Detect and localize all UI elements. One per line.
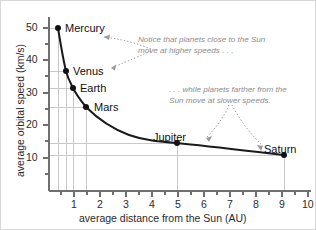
point-label-venus: Venus (73, 66, 104, 77)
x-tick-label-6: 6 (201, 199, 207, 210)
annotation-high-speed: Notice that planets close to the Sun mov… (138, 35, 265, 57)
point-mercury (55, 25, 61, 31)
point-label-jupiter: Jupiter (153, 132, 186, 143)
point-earth (70, 85, 76, 91)
point-venus (63, 68, 69, 74)
annotation-slow-speed: . . . while planets farther from the Sun… (169, 85, 287, 107)
y-tick-label-10: 10 (26, 152, 38, 163)
y-axis-ticks (43, 28, 49, 174)
x-tick-label-7: 7 (227, 199, 233, 210)
annotation-high-speed-line-2: move at higher speeds . . . (138, 46, 265, 57)
x-tick-label-10: 10 (302, 199, 314, 210)
x-tick-label-4: 4 (149, 199, 155, 210)
annotation-slow-speed-line-2: Sun move at slower speeds. (169, 96, 287, 107)
x-tick-label-2: 2 (97, 199, 103, 210)
point-mars (83, 104, 89, 110)
point-label-earth: Earth (80, 83, 106, 94)
y-tick-label-30: 30 (26, 87, 38, 98)
point-label-mercury: Mercury (65, 23, 105, 34)
x-axis-title: average distance from the Sun (AU) (79, 213, 247, 224)
chart-figure: 50 40 30 20 10 1 2 3 4 5 6 7 8 9 10 aver… (0, 0, 316, 230)
y-tick-label-40: 40 (26, 54, 38, 65)
x-tick-label-3: 3 (123, 199, 129, 210)
x-tick-label-9: 9 (279, 199, 285, 210)
point-label-saturn: Saturn (264, 144, 296, 155)
annotation-slow-speed-line-1: . . . while planets farther from the (169, 85, 287, 96)
annotation-high-speed-arrowheads (104, 35, 116, 71)
y-tick-label-50: 50 (26, 22, 38, 33)
x-axis-ticks (61, 191, 308, 197)
y-tick-label-20: 20 (26, 119, 38, 130)
x-tick-label-8: 8 (253, 199, 259, 210)
annotation-high-speed-line-1: Notice that planets close to the Sun (138, 35, 265, 46)
x-tick-label-1: 1 (71, 199, 77, 210)
point-label-mars: Mars (94, 102, 118, 113)
annotation-slow-speed-arrows (206, 105, 263, 146)
x-tick-label-5: 5 (175, 199, 181, 210)
y-axis-title: average orbital speed (km/s) (15, 44, 26, 177)
